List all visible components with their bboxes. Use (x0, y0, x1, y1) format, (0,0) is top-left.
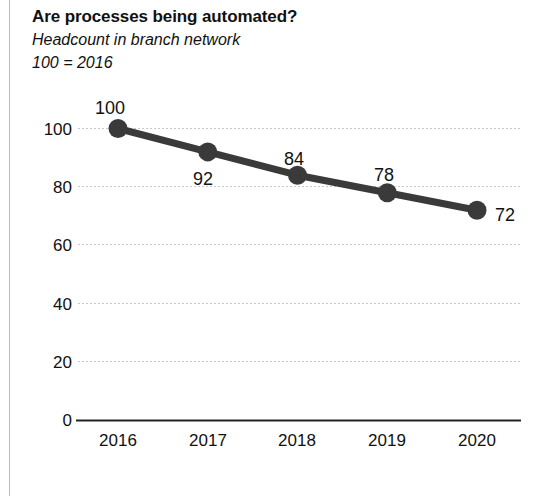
data-label-2016: 100 (95, 99, 125, 117)
plot-area: 100 80 60 40 20 0 2016 2017 2018 2019 20… (0, 0, 554, 496)
y-tick-label-80: 80 (12, 179, 72, 196)
y-tick-label-100: 100 (12, 121, 72, 138)
chart-canvas (0, 0, 554, 496)
data-label-2020: 72 (495, 206, 515, 224)
data-label-2017: 92 (193, 170, 213, 188)
data-point-2017 (198, 142, 217, 161)
x-tick-label-2019: 2019 (347, 432, 427, 449)
data-label-2018: 84 (284, 150, 304, 168)
chart-figure: Are processes being automated? Headcount… (0, 0, 554, 496)
y-tick-label-20: 20 (12, 354, 72, 371)
y-tick-label-0: 0 (12, 412, 72, 429)
data-point-2020 (468, 201, 487, 220)
x-tick-label-2018: 2018 (257, 432, 337, 449)
x-tick-label-2016: 2016 (78, 432, 158, 449)
data-point-2016 (109, 119, 128, 138)
y-tick-label-40: 40 (12, 296, 72, 313)
y-tick-label-60: 60 (12, 237, 72, 254)
data-markers (109, 119, 487, 220)
x-tick-label-2020: 2020 (437, 432, 517, 449)
x-tick-label-2017: 2017 (168, 432, 248, 449)
data-point-2019 (378, 183, 397, 202)
data-label-2019: 78 (374, 166, 394, 184)
